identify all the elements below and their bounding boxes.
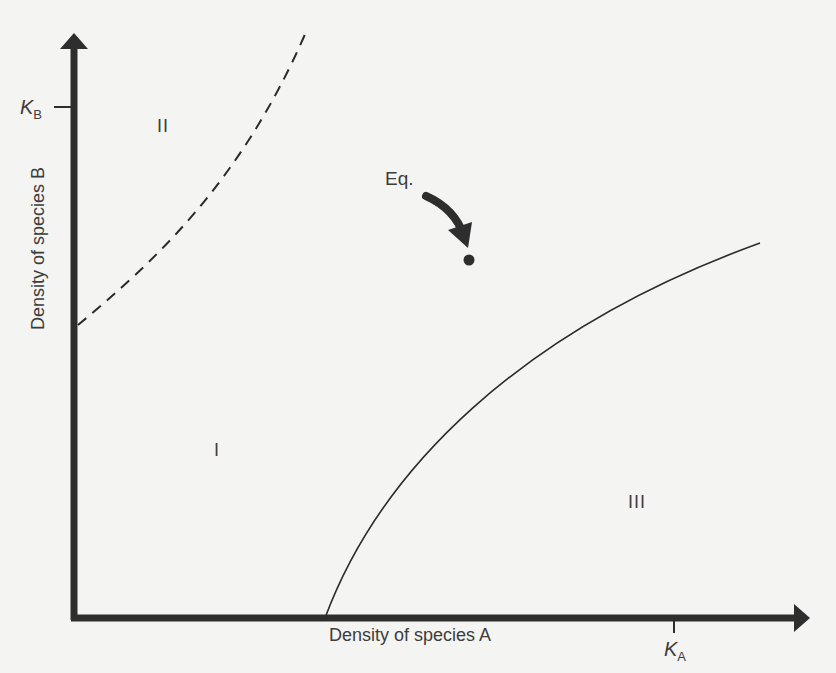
ka-symbol: K [664, 638, 677, 660]
kb-symbol: K [20, 96, 33, 118]
solid-isocline [325, 243, 760, 618]
kb-subscript: B [33, 107, 42, 122]
isocline-diagram [0, 0, 836, 673]
region-label-ii: II [157, 116, 169, 137]
x-axis-arrowhead-icon [794, 604, 810, 632]
dashed-isocline [78, 32, 306, 325]
eq-arrow-icon [426, 196, 472, 248]
region-label-iii: III [628, 492, 646, 513]
y-axis-arrowhead-icon [60, 33, 88, 49]
y-axis-label: Density of species B [28, 167, 49, 330]
equilibrium-point [464, 255, 475, 266]
y-axis [54, 33, 88, 620]
eq-label: Eq. [385, 168, 414, 190]
region-label-i: I [214, 440, 220, 461]
ka-subscript: A [677, 649, 686, 664]
x-axis-label: Density of species A [329, 625, 491, 646]
kb-label: KB [20, 96, 42, 122]
ka-label: KA [664, 638, 686, 664]
